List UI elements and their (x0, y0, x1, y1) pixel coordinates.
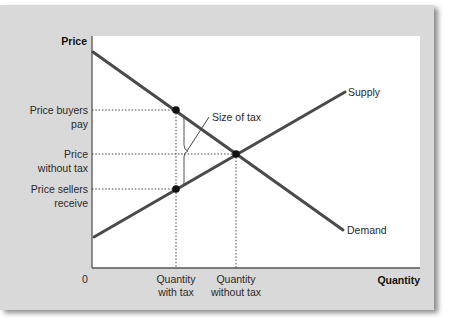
buyers-point (172, 106, 180, 114)
supply-label: Supply (348, 86, 381, 98)
equilibrium-point (232, 150, 240, 158)
origin-label: 0 (82, 273, 88, 285)
x-label-quantity-with-2: with tax (157, 286, 194, 298)
y-label-price-buyers-2: pay (71, 118, 89, 130)
x-label-quantity-without-2: without tax (210, 286, 262, 298)
demand-label: Demand (347, 224, 387, 236)
diagram-stage: Price Quantity 0 Price buyers pay Price … (0, 0, 454, 320)
y-label-price-sellers-2: receive (54, 197, 88, 209)
tax-incidence-diagram: Price Quantity 0 Price buyers pay Price … (0, 0, 454, 320)
sellers-point (172, 185, 180, 193)
x-label-quantity-without-1: Quantity (216, 273, 256, 285)
y-axis-title: Price (61, 35, 87, 47)
y-label-price-sellers-1: Price sellers (31, 183, 88, 195)
x-label-quantity-with-1: Quantity (156, 273, 196, 285)
x-axis-title: Quantity (377, 274, 420, 286)
y-label-price-without-2: without tax (37, 162, 89, 174)
size-of-tax-label: Size of tax (212, 111, 262, 123)
y-label-price-buyers-1: Price buyers (30, 104, 88, 116)
y-label-price-without-1: Price (64, 148, 88, 160)
